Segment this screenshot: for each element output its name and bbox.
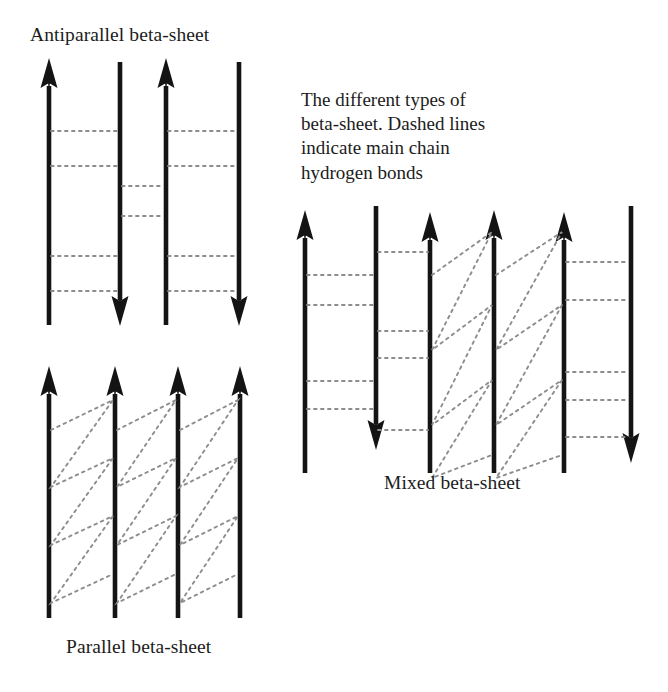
strand-arrowhead	[41, 366, 58, 400]
hbond-group-antiparallel	[51, 131, 237, 291]
panel-mixed	[297, 206, 640, 478]
strand-arrowhead	[158, 58, 175, 92]
strand-arrowhead	[486, 210, 503, 244]
panel-parallel	[41, 366, 249, 618]
strand-arrowhead	[231, 292, 248, 326]
caption-line: indicate main chain	[301, 136, 546, 160]
strand-arrowhead	[107, 366, 124, 400]
hbond-group-mixed	[307, 232, 629, 478]
label-mixed-beta-sheet: Mixed beta-sheet	[384, 472, 520, 494]
hbond-group-parallel	[51, 400, 238, 603]
label-parallel-beta-sheet: Parallel beta-sheet	[66, 636, 211, 658]
figure-canvas: Antiparallel beta-sheet Parallel beta-sh…	[0, 0, 668, 692]
caption-line: The different types of	[301, 88, 546, 112]
panel-antiparallel	[41, 58, 248, 326]
strand-arrowhead	[112, 292, 129, 326]
caption-line: hydrogen bonds	[301, 161, 546, 185]
strand-group-mixed	[305, 206, 631, 473]
label-antiparallel-beta-sheet: Antiparallel beta-sheet	[30, 24, 209, 46]
caption-line: beta-sheet. Dashed lines	[301, 112, 546, 136]
strand-arrowhead	[556, 212, 573, 246]
strand-arrowhead	[623, 429, 640, 463]
strand-arrowhead	[170, 366, 187, 400]
strand-arrowhead	[297, 210, 314, 244]
strand-arrowhead	[422, 212, 439, 246]
strand-arrowhead	[368, 416, 385, 450]
strand-group-antiparallel	[49, 62, 239, 325]
strand-arrowhead	[41, 58, 58, 92]
figure-caption: The different types of beta-sheet. Dashe…	[301, 88, 546, 185]
strand-arrowhead	[232, 366, 249, 400]
